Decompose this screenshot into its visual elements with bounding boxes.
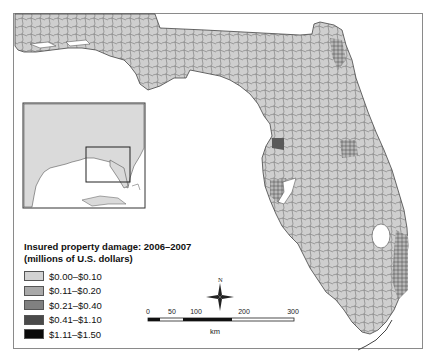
legend-swatch	[24, 286, 44, 296]
north-arrow-icon	[206, 283, 234, 311]
legend: Insured property damage: 2006–2007 (mill…	[24, 241, 191, 342]
legend-label: $0.11–$0.20	[49, 285, 101, 296]
legend-label: $0.00–$0.10	[49, 271, 102, 282]
inset-map	[23, 103, 145, 208]
legend-swatch	[24, 271, 44, 281]
legend-title-line2: (millions of U.S. dollars)	[24, 253, 191, 265]
legend-item: $0.41–$1.10	[24, 313, 191, 328]
scale-tick-200: 200	[238, 308, 250, 315]
scale-tick-100: 100	[190, 308, 202, 315]
scale-tick-300: 300	[287, 308, 299, 315]
orlando-area	[340, 140, 358, 158]
legend-swatch	[24, 315, 44, 325]
legend-swatch	[24, 329, 44, 339]
legend-item: $0.11–$0.20	[24, 284, 191, 299]
legend-item: $0.00–$0.10	[24, 269, 191, 284]
lake-okeechobee	[372, 224, 390, 248]
legend-item: $1.11–$1.50	[24, 327, 191, 342]
legend-item: $0.21–$0.40	[24, 298, 191, 313]
legend-swatch	[24, 300, 44, 310]
scale-unit: km	[210, 327, 220, 336]
legend-label: $0.21–$0.40	[49, 300, 102, 311]
pasco-area	[272, 138, 284, 150]
legend-label: $0.41–$1.10	[49, 314, 102, 325]
legend-title-line1: Insured property damage: 2006–2007	[24, 241, 191, 253]
legend-label: $1.11–$1.50	[49, 329, 101, 340]
north-label: N	[218, 276, 223, 283]
